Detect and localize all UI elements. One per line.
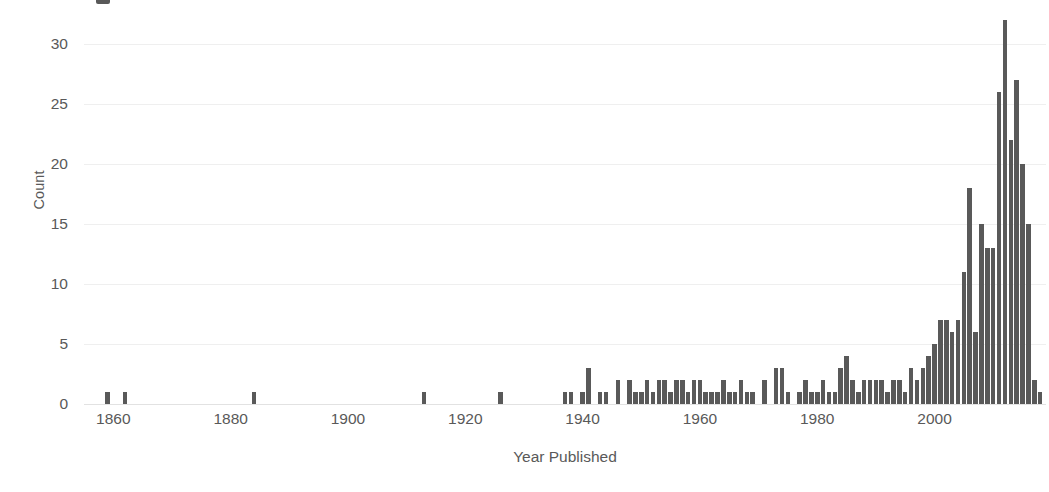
bar [950,332,955,404]
bar [1038,392,1043,404]
x-tick-label: 1980 [777,410,857,428]
bar [868,380,873,404]
bar [938,320,943,404]
bar [1009,140,1014,404]
x-tick-label: 1960 [660,410,740,428]
bar [944,320,949,404]
bar [780,368,785,404]
bar [909,368,914,404]
plot-area [84,14,1046,404]
bar [915,380,920,404]
bar [1020,164,1025,404]
bar [569,392,574,404]
bar [903,392,908,404]
bar [680,380,685,404]
bar [985,248,990,404]
bar [657,380,662,404]
y-tick-label: 15 [22,215,68,233]
bar [580,392,585,404]
bar [962,272,967,404]
gridline-0 [84,404,1046,405]
bar [891,380,896,404]
bar [786,392,791,404]
bar [692,380,697,404]
bar [885,392,890,404]
bar [662,380,667,404]
x-axis-title: Year Published [84,448,1046,466]
bar-series [84,14,1046,404]
bar [123,392,128,404]
bar [809,392,814,404]
bar [252,392,257,404]
bar [422,392,427,404]
bar [750,392,755,404]
bar [674,380,679,404]
bar [639,392,644,404]
bar [698,380,703,404]
bar [1032,380,1037,404]
x-tick-label: 1940 [543,410,623,428]
bar [627,380,632,404]
bar [745,392,750,404]
bar [803,380,808,404]
bar [921,368,926,404]
bar [956,320,961,404]
bar [668,392,673,404]
bar [932,344,937,404]
bar [651,392,656,404]
x-tick-label: 1900 [308,410,388,428]
histogram-chart: Count 302520151050 186018801900192019401… [0,0,1049,492]
y-tick-label: 5 [22,335,68,353]
bar [721,380,726,404]
bar [821,380,826,404]
truncated-title [96,0,110,4]
bar [762,380,767,404]
bar [1003,20,1008,404]
bar [633,392,638,404]
bar [844,356,849,404]
bar [833,392,838,404]
x-tick-label: 1860 [73,410,153,428]
y-tick-label: 10 [22,275,68,293]
x-axis-tick-labels: 18601880190019201940196019802000 [84,410,1046,434]
bar [850,380,855,404]
bar [604,392,609,404]
bar [979,224,984,404]
bar [862,380,867,404]
bar [997,92,1002,404]
y-tick-label: 30 [22,35,68,53]
bar [709,392,714,404]
bar [739,380,744,404]
bar [715,392,720,404]
bar [686,392,691,404]
bar [616,380,621,404]
y-axis-tick-labels: 302520151050 [22,0,68,492]
bar [703,392,708,404]
bar [973,332,978,404]
bar [598,392,603,404]
bar [733,392,738,404]
bar [827,392,832,404]
bar [797,392,802,404]
bar [926,356,931,404]
y-tick-label: 25 [22,95,68,113]
bar [879,380,884,404]
bar [105,392,110,404]
bar [727,392,732,404]
bar [586,368,591,404]
bar [967,188,972,404]
y-tick-label: 20 [22,155,68,173]
y-tick-label: 0 [22,395,68,413]
bar [838,368,843,404]
x-tick-label: 2000 [895,410,975,428]
bar [498,392,503,404]
bar [856,392,861,404]
bar [645,380,650,404]
bar [874,380,879,404]
bar [774,368,779,404]
bar [815,392,820,404]
bar [1014,80,1019,404]
bar [563,392,568,404]
x-tick-label: 1920 [425,410,505,428]
bar [991,248,996,404]
